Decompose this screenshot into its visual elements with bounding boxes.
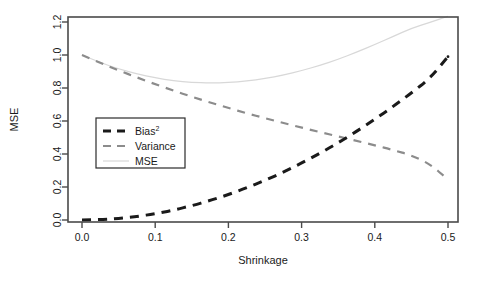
y-axis-title: MSE bbox=[8, 108, 20, 132]
x-tick-label: 0.0 bbox=[75, 231, 90, 243]
plot-background bbox=[0, 0, 478, 281]
legend-label-mse[interactable]: MSE bbox=[135, 155, 158, 167]
y-tick-label: 0.4 bbox=[51, 147, 63, 162]
bias-endpoint-marker bbox=[447, 55, 450, 58]
y-tick-label: 0.2 bbox=[51, 180, 63, 195]
y-tick-label: 1.2 bbox=[51, 15, 63, 30]
x-tick-label: 0.1 bbox=[148, 231, 163, 243]
x-tick-label: 0.3 bbox=[294, 231, 309, 243]
x-tick-label: 0.4 bbox=[367, 231, 382, 243]
y-tick-label: 0.0 bbox=[51, 213, 63, 228]
y-tick-label: 0.8 bbox=[51, 81, 63, 96]
x-axis-title: Shrinkage bbox=[238, 254, 288, 266]
x-tick-label: 0.5 bbox=[441, 231, 456, 243]
mse-bias-variance-plot: 0.00.10.20.30.40.5 0.00.20.40.60.81.01.2… bbox=[0, 0, 478, 281]
chart-legend[interactable]: Bias2VarianceMSE bbox=[96, 118, 185, 168]
x-tick-label: 0.2 bbox=[221, 231, 236, 243]
legend-label-variance[interactable]: Variance bbox=[135, 140, 176, 152]
chart-figure: 0.00.10.20.30.40.5 0.00.20.40.60.81.01.2… bbox=[0, 0, 478, 281]
y-tick-label: 0.6 bbox=[51, 114, 63, 129]
y-tick-label: 1.0 bbox=[51, 48, 63, 63]
legend-superscript: 2 bbox=[155, 125, 159, 132]
